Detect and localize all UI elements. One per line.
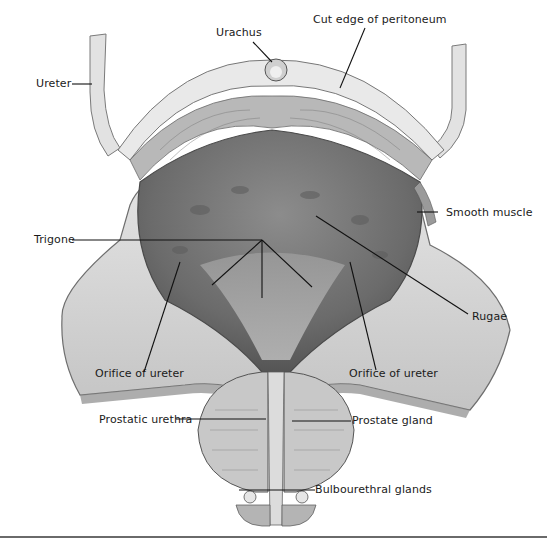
label-orifice-of-ureter-left: Orifice of ureter: [95, 367, 184, 380]
prostate: [198, 372, 354, 525]
urachus-structure: [265, 59, 287, 81]
label-trigone: Trigone: [34, 233, 75, 246]
label-urachus: Urachus: [216, 26, 262, 39]
label-rugae: Rugae: [472, 310, 507, 323]
label-bulbourethral-glands: Bulbourethral glands: [315, 483, 432, 496]
label-orifice-of-ureter-right: Orifice of ureter: [349, 367, 438, 380]
label-cut-edge-of-peritoneum: Cut edge of peritoneum: [313, 13, 447, 26]
bottom-rule: [0, 536, 547, 538]
label-prostatic-urethra: Prostatic urethra: [99, 413, 192, 426]
label-ureter: Ureter: [36, 77, 71, 90]
label-smooth-muscle: Smooth muscle: [446, 206, 533, 219]
bladder-illustration: [0, 0, 547, 549]
label-prostate-gland: Prostate gland: [352, 414, 433, 427]
